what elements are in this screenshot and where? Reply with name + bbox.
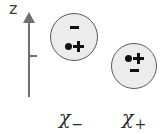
label-chi-plus-subscript: + bbox=[135, 116, 147, 132]
sphere-chi-minus-bottom-symbol bbox=[51, 41, 97, 52]
nucleus-dot-icon bbox=[65, 43, 72, 50]
minus-sign-icon bbox=[70, 26, 79, 29]
plus-sign-icon bbox=[73, 41, 84, 52]
label-chi-minus-subscript: − bbox=[72, 116, 84, 132]
minus-sign-icon bbox=[130, 69, 139, 72]
z-axis-tick-mark bbox=[30, 55, 37, 57]
sphere-chi-plus bbox=[111, 43, 157, 89]
dipole-orientation-figure: z χ− χ+ bbox=[0, 0, 168, 134]
sphere-chi-plus-bottom-symbol bbox=[112, 69, 156, 72]
z-axis-label: z bbox=[9, 1, 17, 17]
label-chi-minus-base: χ bbox=[59, 106, 71, 128]
label-chi-minus: χ− bbox=[59, 108, 83, 134]
z-axis-line bbox=[28, 20, 30, 97]
nucleus-dot-icon bbox=[125, 55, 132, 62]
label-chi-plus: χ+ bbox=[122, 108, 146, 134]
label-chi-plus-base: χ bbox=[122, 106, 134, 128]
sphere-chi-plus-top-symbol bbox=[112, 53, 156, 64]
plus-sign-icon bbox=[133, 53, 144, 64]
sphere-chi-minus-top-symbol bbox=[51, 26, 97, 29]
sphere-chi-minus bbox=[50, 13, 98, 61]
